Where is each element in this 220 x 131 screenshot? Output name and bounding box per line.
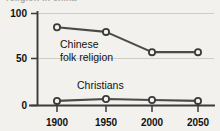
y-tick-label-0: 0	[21, 100, 27, 111]
x-tick-label-2050: 2050	[187, 117, 210, 128]
x-tick-label-1950: 1950	[95, 117, 118, 128]
y-ticks	[31, 14, 38, 106]
series-label-chinese-folk-religion-line1: Chinese	[60, 38, 99, 50]
series-label-chinese-folk-religion-line2: folk religion	[60, 51, 113, 63]
data-point[interactable]	[54, 98, 60, 104]
y-tick-label-100: 100	[10, 8, 27, 19]
series-layer	[54, 24, 201, 104]
line-chart: 100 50 0 1900 1950 2000 2050 Chinese fol…	[0, 0, 220, 131]
data-point[interactable]	[195, 98, 201, 104]
data-point[interactable]	[149, 49, 155, 55]
data-point[interactable]	[54, 24, 60, 30]
series-line-1	[57, 99, 198, 101]
data-point[interactable]	[195, 49, 201, 55]
data-point[interactable]	[103, 29, 109, 35]
y-tick-label-50: 50	[16, 53, 28, 64]
x-ticks	[57, 106, 198, 113]
series-label-christians: Christians	[77, 79, 124, 91]
x-tick-label-2000: 2000	[141, 117, 164, 128]
data-point[interactable]	[103, 96, 109, 102]
x-tick-label-1900: 1900	[46, 117, 69, 128]
data-point[interactable]	[149, 97, 155, 103]
chart-container: religion in china 100 50 0	[0, 0, 220, 131]
